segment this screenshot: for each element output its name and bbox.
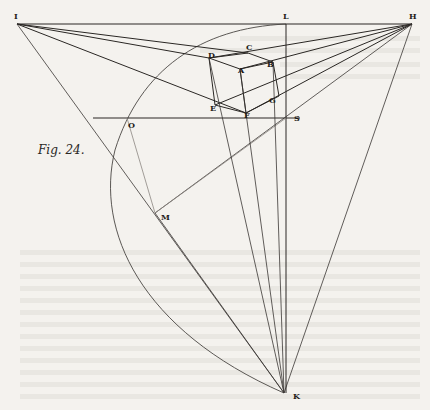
label-D: D bbox=[208, 51, 215, 59]
label-E: E bbox=[210, 104, 216, 112]
line-H-E bbox=[215, 24, 412, 105]
line-D-K bbox=[209, 58, 284, 393]
label-K: K bbox=[293, 392, 300, 400]
label-I: I bbox=[14, 12, 18, 20]
perspective-construction-figure bbox=[0, 0, 430, 410]
figure-caption: Fig. 24. bbox=[38, 143, 85, 157]
arc-through-O-to-K bbox=[111, 24, 286, 393]
label-B: B bbox=[267, 60, 274, 68]
label-M: M bbox=[161, 213, 170, 221]
label-O: O bbox=[128, 121, 135, 129]
label-H: H bbox=[409, 12, 417, 20]
label-C: C bbox=[246, 43, 252, 51]
line-I-D bbox=[17, 24, 209, 58]
line-H-A bbox=[240, 24, 412, 69]
line-M-S bbox=[155, 118, 286, 213]
line-B-K bbox=[273, 62, 284, 393]
label-S: S bbox=[294, 114, 300, 122]
line-O-M bbox=[127, 118, 155, 213]
line-H-D bbox=[209, 24, 412, 58]
label-A: A bbox=[238, 66, 244, 74]
label-L: L bbox=[283, 12, 289, 20]
diagram-stage: I L H C D B A E F G O S M K Fig. 24. bbox=[0, 0, 430, 410]
line-M-K bbox=[155, 213, 284, 393]
label-F: F bbox=[244, 111, 250, 119]
label-G: G bbox=[269, 96, 276, 104]
line-H-K bbox=[284, 24, 412, 393]
